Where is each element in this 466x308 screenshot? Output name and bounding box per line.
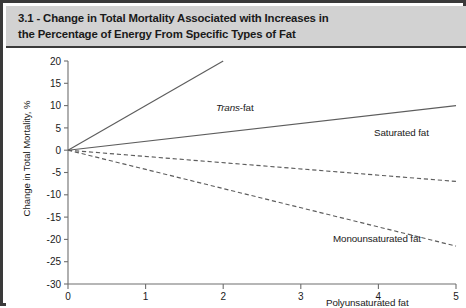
x-tick-label: 5 xyxy=(453,291,459,302)
chart-canvas: 20151050-5-10-15-20-25-30 012345 xyxy=(6,48,466,306)
series-line-polyunsaturated-fat xyxy=(68,150,456,246)
x-tick-label: 2 xyxy=(220,291,226,302)
series-lines xyxy=(68,61,456,246)
plot-region: Change in Total Mortality, % 20151050-5-… xyxy=(6,48,466,306)
x-tick-label: 0 xyxy=(65,291,71,302)
series-line-monounsaturated-fat xyxy=(68,150,456,181)
x-tick-label: 3 xyxy=(298,291,304,302)
series-label-trans-fat: Trans-fat xyxy=(216,102,254,113)
figure-title: 3.1 - Change in Total Mortality Associat… xyxy=(18,11,456,42)
y-tick-label: 15 xyxy=(50,78,62,89)
x-tick-label: 1 xyxy=(143,291,149,302)
y-tick-label: -20 xyxy=(47,234,62,245)
y-tick-label: -5 xyxy=(52,167,61,178)
trans-italic: Trans xyxy=(216,102,240,113)
y-tick-label: -10 xyxy=(47,189,62,200)
y-axis: 20151050-5-10-15-20-25-30 xyxy=(47,56,68,290)
y-tick-label: 20 xyxy=(50,56,62,67)
series-line-trans-fat xyxy=(68,61,223,150)
y-tick-label: -25 xyxy=(47,256,62,267)
y-tick-label: -15 xyxy=(47,212,62,223)
figure-header-band: 3.1 - Change in Total Mortality Associat… xyxy=(6,6,466,48)
series-label-saturated-fat: Saturated fat xyxy=(374,127,429,138)
y-tick-label: 10 xyxy=(50,100,62,111)
y-tick-group: 20151050-5-10-15-20-25-30 xyxy=(47,56,68,290)
y-tick-label: 5 xyxy=(55,123,61,134)
y-tick-label: 0 xyxy=(55,145,61,156)
y-tick-label: -30 xyxy=(47,279,62,290)
series-label-monounsaturated-fat: Monounsaturated fat xyxy=(333,233,421,244)
series-label-polyunsaturated-fat: Polyunsaturated fat xyxy=(326,297,409,308)
